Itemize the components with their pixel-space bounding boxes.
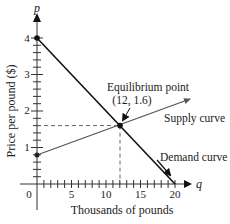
y-tick-label: 4 <box>24 32 30 44</box>
x-tick-label: 10 <box>101 188 113 200</box>
equilibrium-coords: (12, 1.6) <box>112 94 151 107</box>
x-tick-label: 15 <box>135 188 147 200</box>
demand-curve-line <box>37 38 175 184</box>
equilibrium-label: Equilibrium point <box>107 81 190 94</box>
equilibrium-point <box>117 123 123 129</box>
x-axis-arrow-icon <box>184 180 192 188</box>
x-axis-title: Thousands of pounds <box>71 203 174 217</box>
supply-curve-line <box>37 99 190 155</box>
supply-curve-label: Supply curve <box>164 112 225 125</box>
demand-intercept-point <box>34 35 40 41</box>
y-tick-label: 3 <box>24 68 30 80</box>
y-tick-label: 1 <box>24 141 30 153</box>
supply-intercept-point <box>35 153 40 158</box>
y-axis-symbol: p <box>33 1 40 15</box>
x-axis-symbol: q <box>196 177 202 191</box>
x-tick-label: 20 <box>170 188 182 200</box>
demand-curve-label: Demand curve <box>160 151 227 163</box>
equilibrium-guides <box>37 126 120 184</box>
x-tick-label: 0 <box>26 188 32 200</box>
supply-demand-chart: 1 2 3 4 0 5 10 15 20 p q Thousands of po… <box>0 0 230 224</box>
x-tick-label: 5 <box>69 188 75 200</box>
y-tick-label: 2 <box>24 104 30 116</box>
y-axis-title: Price per pound ($) <box>4 65 18 158</box>
equilibrium-pointer-arrow <box>123 108 130 120</box>
